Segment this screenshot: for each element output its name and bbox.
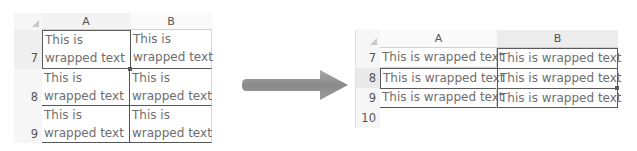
- row-header-9[interactable]: 9: [355, 88, 380, 108]
- cell-b9[interactable]: This is wrapped text: [497, 88, 618, 108]
- column-header-b[interactable]: B: [497, 30, 618, 48]
- cell-a8[interactable]: This is wrapped text: [380, 68, 498, 89]
- spreadsheet-after: A B 7 This is wrapped text This is wrapp…: [0, 0, 637, 151]
- row-header-7[interactable]: 7: [355, 48, 380, 68]
- row-header-8[interactable]: 8: [355, 68, 380, 88]
- cell-a9[interactable]: This is wrapped text: [380, 88, 497, 108]
- cell-a7[interactable]: This is wrapped text: [380, 48, 497, 68]
- cell-b8[interactable]: This is wrapped text: [497, 68, 618, 89]
- cell-b7[interactable]: This is wrapped text: [497, 48, 618, 69]
- column-header-a[interactable]: A: [380, 30, 497, 48]
- select-all-triangle-icon: [370, 38, 377, 45]
- select-all-corner[interactable]: [355, 30, 380, 48]
- row-header-10[interactable]: 10: [355, 108, 380, 128]
